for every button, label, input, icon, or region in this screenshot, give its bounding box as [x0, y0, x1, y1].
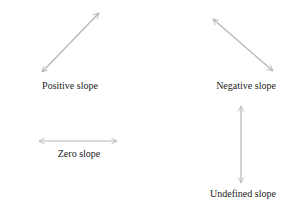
slope-diagram: Positive slope Negative slope Zero slope…: [0, 0, 292, 212]
zero-slope-label: Zero slope: [58, 149, 101, 159]
negative-slope-arrow-icon: [213, 19, 273, 71]
positive-slope-label: Positive slope: [42, 81, 98, 91]
positive-slope-arrow-icon: [42, 13, 99, 72]
negative-slope-label: Negative slope: [216, 81, 276, 91]
arrows-layer: [0, 0, 292, 212]
undefined-slope-label: Undefined slope: [210, 189, 276, 199]
